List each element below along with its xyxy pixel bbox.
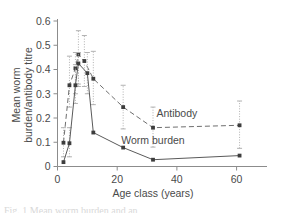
y-tick-label: 0.6: [36, 15, 51, 27]
series-worm-burden-marker: [121, 146, 125, 150]
series-worm-burden-marker: [91, 131, 95, 135]
y-tick-label: 0.3: [36, 88, 51, 100]
y-tick-label: 0.2: [36, 112, 51, 124]
series-worm-burden-marker: [68, 141, 72, 145]
series-worm-burden-marker: [76, 62, 80, 66]
y-tick-label: 0.1: [36, 136, 51, 148]
annotation-worm-burden: Worm burden: [121, 134, 185, 146]
y-axis-title-line2: burden/antibody titre: [22, 47, 34, 143]
x-tick-label: 60: [231, 173, 243, 185]
x-tick-label: 0: [55, 173, 61, 185]
figure-container: 00.10.20.30.40.50.60204060Age class (yea…: [0, 0, 292, 213]
series-antibody-marker: [91, 77, 95, 81]
series-worm-burden-marker: [74, 83, 78, 87]
series-antibody-marker: [121, 105, 125, 109]
series-worm-burden-marker: [62, 160, 66, 164]
x-tick-label: 20: [111, 173, 123, 185]
figure-caption: Fig. 1 Mean worm burden and an: [4, 205, 289, 213]
series-worm-burden-marker: [151, 158, 155, 162]
series-antibody-marker: [62, 141, 66, 145]
y-tick-label: 0: [45, 160, 51, 172]
series-worm-burden-marker: [85, 71, 89, 75]
y-tick-label: 0.4: [36, 63, 51, 75]
x-axis-title: Age class (years): [112, 187, 193, 199]
series-antibody-marker: [82, 59, 86, 63]
y-axis-title-line1: Mean worm: [10, 67, 22, 122]
y-tick-label: 0.5: [36, 39, 51, 51]
x-tick-label: 40: [171, 173, 183, 185]
series-antibody-marker: [238, 123, 242, 127]
series-antibody-marker: [68, 83, 72, 87]
annotation-antibody: Antibody: [156, 107, 198, 119]
worm-burden-antibody-chart: 00.10.20.30.40.50.60204060Age class (yea…: [0, 0, 292, 213]
series-worm-burden-marker: [238, 154, 242, 158]
series-antibody-marker: [151, 126, 155, 130]
